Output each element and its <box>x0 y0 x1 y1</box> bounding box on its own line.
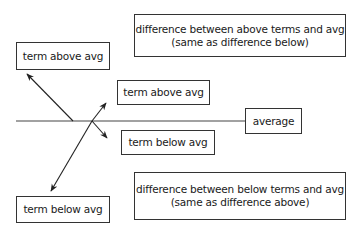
term-below-avg-mid-label: term below avg <box>128 136 207 149</box>
difference-below-line1: difference between below terms and avg <box>136 183 344 196</box>
term-above-avg-left-box: term above avg <box>16 42 110 70</box>
arrow-to-term-below-left <box>51 121 92 191</box>
arrow-to-term-below-mid <box>92 121 107 138</box>
term-above-avg-left-label: term above avg <box>23 50 103 63</box>
difference-above-line2: (same as difference below) <box>135 36 344 49</box>
arrow-to-term-above-mid <box>92 103 106 121</box>
term-below-avg-left-box: term below avg <box>16 196 110 223</box>
arrow-to-term-above-left <box>27 74 73 121</box>
term-above-avg-mid-label: term above avg <box>123 86 203 99</box>
difference-above-line1: difference between above terms and avg <box>135 23 344 36</box>
difference-below-box: difference between below terms and avg (… <box>134 172 346 220</box>
term-below-avg-mid-box: term below avg <box>121 130 215 155</box>
average-box: average <box>245 108 302 134</box>
term-below-avg-left-label: term below avg <box>23 203 102 216</box>
average-label: average <box>253 115 295 128</box>
term-above-avg-mid-box: term above avg <box>117 80 210 105</box>
difference-below-line2: (same as difference above) <box>136 196 344 209</box>
difference-above-box: difference between above terms and avg (… <box>134 14 346 57</box>
